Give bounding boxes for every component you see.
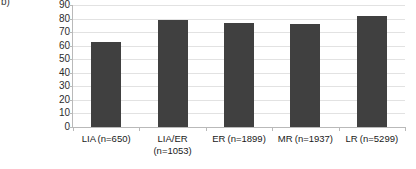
- y-axis-tick-mark: [68, 73, 73, 74]
- bar-slot: [272, 5, 338, 127]
- y-axis-tick-mark: [68, 113, 73, 114]
- x-axis-tick-mark: [405, 127, 406, 131]
- x-axis-tick-marks: [73, 127, 405, 132]
- bar[interactable]: [158, 20, 188, 127]
- x-axis-tick-mark: [206, 127, 207, 131]
- x-axis-tick-mark: [139, 127, 140, 131]
- y-axis-tick-mark: [68, 19, 73, 20]
- x-axis-category-label-line: MR (n=1937): [272, 133, 338, 145]
- bar-slot: [73, 5, 139, 127]
- panel-letter: b): [1, 0, 10, 8]
- bar-slot: [339, 5, 405, 127]
- x-axis-category-label: LIA (n=650): [73, 133, 139, 145]
- x-axis-category-label: ER (n=1899): [206, 133, 272, 145]
- y-axis-tick-mark: [68, 86, 73, 87]
- bar[interactable]: [224, 23, 254, 127]
- y-axis-tick-mark: [68, 59, 73, 60]
- y-axis-tick-mark: [68, 5, 73, 6]
- x-axis-tick-mark: [272, 127, 273, 131]
- x-axis-tick-mark: [339, 127, 340, 131]
- x-axis-category-label: LR (n=5299): [339, 133, 405, 145]
- x-axis-category-label-line: ER (n=1899): [206, 133, 272, 145]
- y-axis-title: % of phased burials within cemetery: [0, 0, 7, 87]
- y-axis-tick-mark: [68, 127, 73, 128]
- y-axis-tick-labels: 0102030405060708090: [44, 0, 70, 132]
- bar-slot: [139, 5, 205, 127]
- x-axis-category-labels: LIA (n=650)LIA/ER(n=1053)ER (n=1899)MR (…: [73, 133, 405, 157]
- bar-slot: [206, 5, 272, 127]
- x-axis-category-label: LIA/ER(n=1053): [139, 133, 205, 157]
- y-axis-tick-mark: [68, 100, 73, 101]
- bar[interactable]: [91, 42, 121, 127]
- x-axis-category-label-line: LR (n=5299): [339, 133, 405, 145]
- x-axis-category-label-line: LIA/ER: [139, 133, 205, 145]
- bar-chart-figure: b) % of phased burials within cemetery 0…: [0, 0, 416, 169]
- bar-series: [73, 5, 405, 127]
- x-axis-category-label-line: LIA (n=650): [73, 133, 139, 145]
- y-axis-tick-mark: [68, 32, 73, 33]
- y-axis-tick-mark: [68, 46, 73, 47]
- bar[interactable]: [357, 16, 387, 127]
- bar[interactable]: [290, 24, 320, 127]
- x-axis-tick-mark: [73, 127, 74, 131]
- plot-area: [73, 5, 405, 127]
- x-axis-category-label: MR (n=1937): [272, 133, 338, 145]
- x-axis-category-label-line: (n=1053): [139, 145, 205, 157]
